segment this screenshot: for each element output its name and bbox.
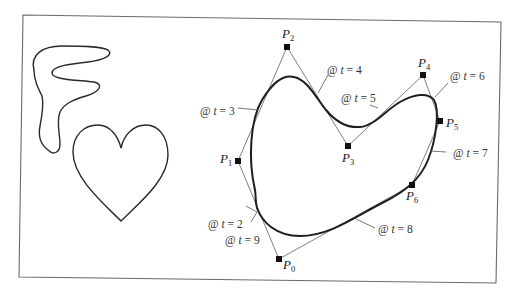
leader-t7 [430,151,446,152]
leader-t5 [370,105,378,108]
param-label-t8: @ t = 8 [378,223,413,236]
param-label-t6: @ t = 6 [450,70,485,83]
leader-t2 [246,206,257,212]
label-p0: P0 [282,257,295,274]
control-point-p3 [345,143,351,149]
heart-shape [73,125,168,221]
param-label-t4: @ t = 4 [327,64,362,77]
leader-t9 [251,212,257,222]
squiggle-shape [33,46,110,153]
param-label-t2: @ t = 2 [208,218,243,231]
param-label-t5: @ t = 5 [341,92,376,105]
param-label-t3: @ t = 3 [200,105,235,118]
figure-frame [19,15,501,283]
leader-t6 [435,83,448,97]
label-p2: P2 [281,26,294,43]
control-point-p4 [420,72,426,78]
label-p3: P3 [341,150,354,167]
label-p5: P5 [445,115,458,132]
param-label-t7: @ t = 7 [453,147,488,160]
label-p4: P4 [417,55,431,72]
param-label-t9: @ t = 9 [225,234,260,247]
control-point-p2 [284,44,290,50]
label-p1: P1 [219,151,232,168]
leader-t3 [238,108,258,110]
control-point-p1 [235,158,241,164]
label-p6: P6 [405,188,418,205]
control-point-p5 [437,118,443,124]
control-point-p0 [276,256,282,262]
spline-diagram: P0 P1 P2 P3 P4 P5 P6 @ t = 2 @ t = 9 @ t… [0,0,511,300]
leader-t8 [356,219,375,228]
leader-t4 [318,75,328,93]
